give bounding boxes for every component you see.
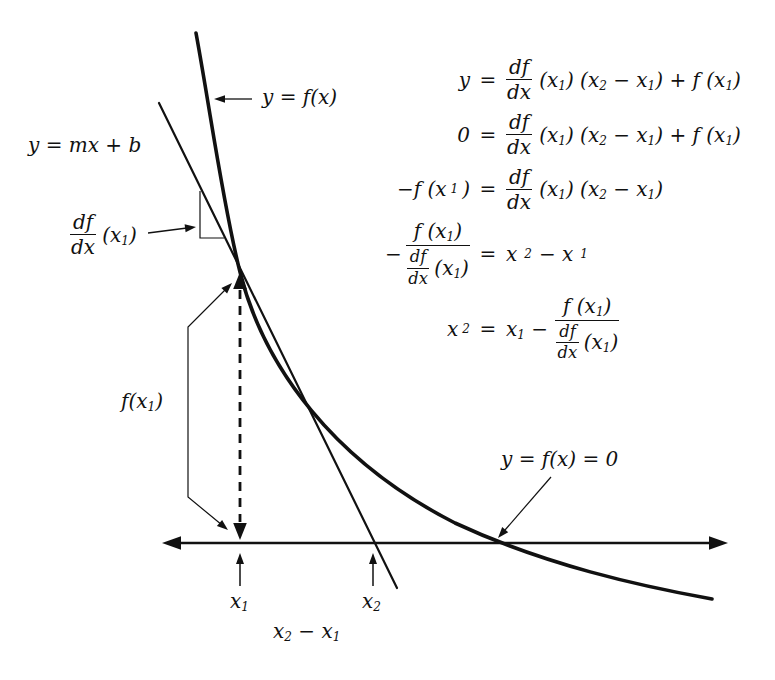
equals-sign: = xyxy=(480,68,497,92)
slope-label: df dx (x1) xyxy=(70,211,137,259)
x1-marker-arrow xyxy=(236,553,244,586)
slope-arrowhead xyxy=(185,224,196,232)
derivation-equations: y = df dx (x1) (x2 − x1) + f (x1) 0 = df… xyxy=(340,56,741,363)
x-diff-label: x2 − x1 xyxy=(273,619,340,643)
equation-1-rhs-rest: (x1) (x2 − x1) + f (x1) xyxy=(539,68,741,92)
slope-arrow xyxy=(148,224,196,233)
df-dx-fraction: df dx xyxy=(506,166,532,214)
equation-2-rhs: df dx (x1) (x2 − x1) + f (x1) xyxy=(506,111,741,159)
x-axis xyxy=(162,536,728,550)
equals-sign: = xyxy=(480,317,497,341)
big-fraction: f (x1) df dx (x1) xyxy=(406,220,470,288)
slope-triangle xyxy=(200,191,224,238)
root-label: y = f(x) = 0 xyxy=(501,447,618,471)
equation-2-lhs: 0 xyxy=(340,123,470,147)
x-axis-left-arrowhead xyxy=(162,536,181,550)
equation-row-5: x2 = x1 − f (x1) df dx (x1) xyxy=(340,295,741,363)
equation-5-lhs: x2 xyxy=(340,317,470,341)
tangent-line-label: y = mx + b xyxy=(28,133,141,157)
equals-sign: = xyxy=(480,242,497,266)
equals-sign: = xyxy=(480,177,497,201)
curve-label: y = f(x) xyxy=(262,85,337,109)
equation-1-lhs: y xyxy=(340,68,470,92)
x2-marker-arrowhead xyxy=(369,553,377,564)
dashed-top-arrowhead xyxy=(233,272,247,289)
equation-row-2: 0 = df dx (x1) (x2 − x1) + f (x1) xyxy=(340,111,741,159)
equation-5-rhs: x1 − f (x1) df dx (x1) xyxy=(506,295,619,363)
newtons-method-diagram: y = f(x) y = mx + b df dx (x1) f(x1) y =… xyxy=(0,0,775,680)
equation-row-4: − f (x1) df dx (x1) = x2 − x1 xyxy=(340,220,741,288)
x-axis-right-arrowhead xyxy=(709,536,728,550)
equation-row-1: y = df dx (x1) (x2 − x1) + f (x1) xyxy=(340,56,741,104)
big-fraction-denominator: df dx (x1) xyxy=(407,246,469,288)
df-dx-fraction: df dx xyxy=(506,56,532,104)
fx1-bracket-line xyxy=(188,288,227,525)
equation-2-rhs-rest: (x1) (x2 − x1) + f (x1) xyxy=(539,123,741,147)
x1-marker-arrowhead xyxy=(236,553,244,564)
vertical-dashed-arrow xyxy=(233,272,247,540)
equation-3-rhs-rest: (x1) (x2 − x1) xyxy=(539,177,663,201)
x1-label: x1 xyxy=(230,589,249,613)
big-fraction: f (x1) df dx (x1) xyxy=(555,295,619,363)
equation-1-rhs: df dx (x1) (x2 − x1) + f (x1) xyxy=(506,56,741,104)
dashed-bottom-arrowhead xyxy=(233,523,247,540)
df-dx-fraction: df dx xyxy=(407,248,430,288)
fx1-bracket-arrow xyxy=(188,283,232,530)
curve-label-arrow xyxy=(214,95,252,103)
slope-arrow-line xyxy=(148,228,187,233)
equation-4-lhs: − f (x1) df dx (x1) xyxy=(340,220,470,288)
slope-label-fraction: df dx xyxy=(70,211,96,259)
curve-label-arrowhead xyxy=(214,95,225,103)
root-arrow xyxy=(498,477,551,538)
fx1-label: f(x1) xyxy=(121,389,163,413)
equation-4-rhs: x2 − x1 xyxy=(506,242,588,266)
x2-marker-arrow xyxy=(369,553,377,586)
x2-label: x2 xyxy=(362,589,381,613)
equation-3-rhs: df dx (x1) (x2 − x1) xyxy=(506,166,663,214)
equation-row-3: −f (x1) = df dx (x1) (x2 − x1) xyxy=(340,166,741,214)
equation-3-lhs: −f (x1) xyxy=(340,177,470,201)
big-fraction-denominator: df dx (x1) xyxy=(556,321,618,363)
df-dx-fraction: df dx xyxy=(506,111,532,159)
slope-label-argument: (x1) xyxy=(102,223,137,247)
root-arrow-line xyxy=(505,477,551,530)
df-dx-fraction: df dx xyxy=(556,323,579,363)
denominator-argument: (x1) xyxy=(434,257,469,280)
minus-sign: − xyxy=(385,242,402,266)
equals-sign: = xyxy=(480,123,497,147)
equation-5-rhs-prefix: x1 − xyxy=(506,317,548,341)
denominator-argument: (x1) xyxy=(584,331,619,354)
